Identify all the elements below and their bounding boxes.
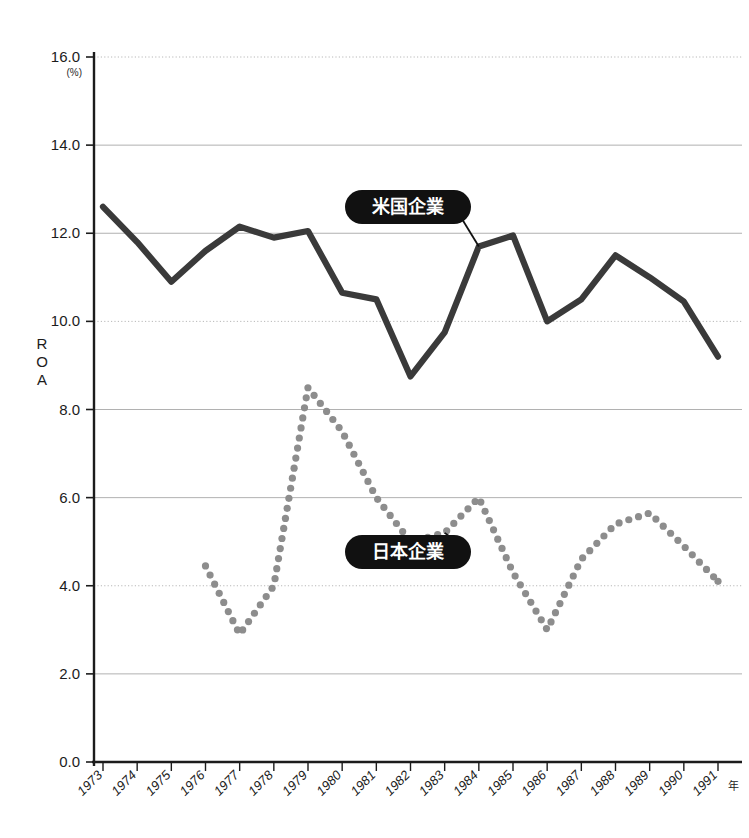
series-dot-jp [511,572,518,579]
x-tick-label: 1983 [416,767,448,799]
x-tick-label: 1979 [279,768,310,799]
series-dots-jp [202,384,722,633]
series-dot-jp [547,618,554,625]
y-tick-label: 12.0 [51,224,80,241]
y-tick-label: 10.0 [51,312,80,329]
series-dot-jp [301,404,308,411]
series-dot-jp [481,508,488,515]
y-axis-title-letter-r: R [37,335,48,352]
series-dot-jp [211,581,218,588]
x-tick-label: 1978 [245,767,277,799]
series-dot-jp [346,442,353,449]
series-dot-jp [245,618,252,625]
series-dot-jp [532,608,539,615]
series-dot-jp [696,559,703,566]
series-dot-jp [714,578,721,585]
x-tick-label: 1977 [211,767,243,799]
series-dot-jp [292,455,299,462]
series-dot-jp [615,519,622,526]
series-dot-jp [490,526,497,533]
series-dot-jp [527,599,534,606]
series-dot-jp [380,504,387,511]
x-tick-label: 1982 [382,767,414,799]
series-dot-jp [239,626,246,633]
series-dot-jp [341,433,348,440]
x-tick-label: 1990 [655,767,687,799]
series-dot-jp [507,563,514,570]
x-tick-label: 1980 [313,767,345,799]
x-axis-unit-label: 年 [728,779,739,793]
series-dot-jp [570,572,577,579]
series-dot-jp [229,617,236,624]
chart-canvas: 0.02.04.06.08.010.012.014.016.0 R O A (%… [0,0,749,838]
series-dot-jp [503,554,510,561]
series-dot-jp [323,408,330,415]
x-axis-labels: 1973197419751976197719781979198019811982… [74,767,720,799]
callout-jp: 日本企業 [345,535,471,569]
series-dot-jp [304,384,311,391]
series-dot-jp [667,530,674,537]
x-tick-label: 1984 [450,768,481,799]
y-tick-label: 14.0 [51,136,80,153]
callout-leader-line [462,219,479,246]
y-tick-label: 2.0 [59,665,80,682]
series-dot-jp [369,487,376,494]
series-dot-jp [364,478,371,485]
y-axis-title: R O A [36,335,48,388]
series-dot-jp [282,515,289,522]
series-dot-jp [303,394,310,401]
x-tick-label: 1991 [689,768,720,799]
y-tick-label: 0.0 [59,753,80,770]
series-dot-jp [399,528,406,535]
series-dot-jp [660,523,667,530]
series-dot-jp [703,566,710,573]
series-dot-jp [289,475,296,482]
series-dot-jp [556,600,563,607]
x-tick-label: 1988 [587,767,619,799]
x-tick-label: 1989 [621,768,652,799]
series-dot-jp [477,498,484,505]
series-dot-jp [284,505,291,512]
series-dot-jp [538,616,545,623]
series-dot-jp [652,515,659,522]
series-dot-jp [280,525,287,532]
callout-jp-label: 日本企業 [372,541,445,562]
roa-line-chart: 0.02.04.06.08.010.012.014.016.0 R O A (%… [0,0,749,838]
y-tick-label: 4.0 [59,577,80,594]
series-dot-jp [329,416,336,423]
series-dot-jp [561,591,568,598]
callout-us: 米国企業 [345,190,471,224]
series-dot-jp [607,525,614,532]
series-dot-jp [285,495,292,502]
series-dot-jp [486,517,493,524]
series-dot-jp [220,599,227,606]
x-tick-label: 1973 [74,767,106,799]
y-tick-label: 6.0 [59,489,80,506]
series-dot-jp [355,460,362,467]
y-tick-label: 8.0 [59,401,80,418]
series-dot-jp [498,545,505,552]
series-dot-jp [387,512,394,519]
series-dot-jp [335,424,342,431]
x-tick-label: 1976 [177,767,209,799]
series-dot-jp [296,434,303,441]
series-dot-jp [593,540,600,547]
series-dot-jp [600,532,607,539]
series-dot-jp [565,582,572,589]
series-dot-jp [278,535,285,542]
series-dot-jp [257,601,264,608]
callout-leader-lines [445,219,479,545]
series-dot-jp [517,581,524,588]
series-dot-jp [216,590,223,597]
series-dot-jp [251,610,258,617]
x-tick-label: 1975 [142,767,174,799]
series-dot-jp [635,513,642,520]
series-dot-jp [287,485,294,492]
series-dot-jp [271,575,278,582]
x-tick-label: 1974 [108,768,139,799]
series-dot-jp [393,520,400,527]
y-axis-ticks: 0.02.04.06.08.010.012.014.016.0 [51,48,94,770]
x-tick-label: 1987 [552,767,584,799]
series-dot-jp [682,544,689,551]
series-dot-jp [268,585,275,592]
